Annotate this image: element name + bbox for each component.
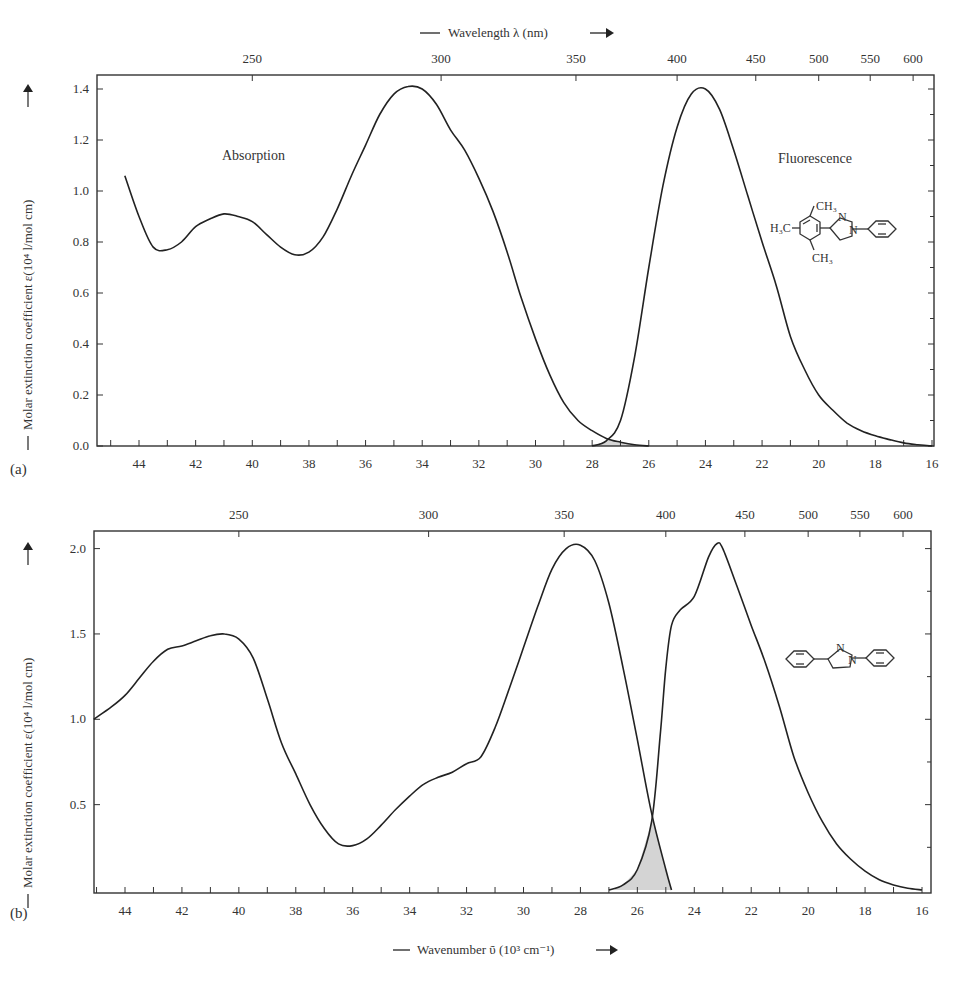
y-tick-label: 1.4 — [73, 81, 90, 96]
y-axis-ticks: 0.00.20.40.60.81.01.21.4 — [73, 81, 934, 453]
y-axis-title-a: Molar extinction coefficient ε(10⁴ l/mol… — [20, 84, 35, 450]
wavelength-tick-label: 550 — [850, 507, 870, 522]
wavelength-tick-label: 500 — [809, 51, 829, 66]
y-tick-label: 1.2 — [73, 132, 89, 147]
molecule-structure-b: N N — [786, 641, 894, 668]
wavelength-tick-label: 450 — [735, 507, 755, 522]
spectra-figure: Wavelength λ (nm) 4442403836343230282624… — [0, 0, 968, 988]
bottom-axis-title: Wavenumber ῦ (10³ cm⁻¹) — [393, 942, 618, 957]
wavelength-tick-label: 250 — [243, 51, 263, 66]
x-tick-label: 40 — [246, 456, 259, 471]
x-tick-label: 38 — [289, 903, 302, 918]
y-tick-label: 0.6 — [73, 285, 90, 300]
wavelength-tick-label: 550 — [860, 51, 880, 66]
x-tick-label: 40 — [232, 903, 245, 918]
x-tick-label: 42 — [175, 903, 188, 918]
plot-frame — [94, 531, 931, 893]
y-tick-label: 0.0 — [73, 438, 89, 453]
x-tick-label: 28 — [586, 456, 599, 471]
panel-label-a: (a) — [10, 461, 27, 478]
x-tick-label: 24 — [699, 456, 713, 471]
spectrum-curves — [94, 543, 922, 890]
x-tick-label: 34 — [403, 903, 417, 918]
svg-text:H₃C: H₃C — [770, 221, 791, 235]
svg-text:Molar extinction coefficient ε: Molar extinction coefficient ε(10⁴ l/mol… — [20, 658, 35, 888]
absorption-curve — [94, 544, 672, 890]
y-tick-label: 0.2 — [73, 387, 89, 402]
svg-text:N: N — [849, 223, 858, 237]
y-tick-label: 1.0 — [70, 711, 86, 726]
plot-frame — [97, 75, 934, 446]
x-tick-label: 44 — [119, 903, 133, 918]
svg-text:N: N — [848, 653, 857, 667]
wavelength-tick-label: 600 — [903, 51, 923, 66]
x-tick-label: 36 — [346, 903, 360, 918]
y-tick-label: 0.5 — [70, 797, 86, 812]
x-tick-label: 34 — [416, 456, 430, 471]
x-tick-label: 32 — [460, 903, 473, 918]
panel-a: 444240383634323028262422201816 0.00.20.4… — [10, 51, 939, 478]
svg-text:Wavelength λ (nm): Wavelength λ (nm) — [448, 25, 548, 40]
wavelength-axis-ticks: 250300350400450500550600 — [243, 51, 923, 81]
x-tick-label: 22 — [745, 903, 758, 918]
x-tick-label: 36 — [359, 456, 373, 471]
svg-text:N: N — [838, 210, 847, 224]
x-tick-label: 30 — [517, 903, 530, 918]
fluorescence-curve — [592, 88, 932, 446]
molecule-structure-a: CH₃ H₃C CH₃ N N — [770, 199, 896, 265]
wavelength-tick-label: 300 — [431, 51, 451, 66]
x-tick-label: 18 — [859, 903, 872, 918]
y-tick-label: 2.0 — [70, 541, 86, 556]
x-tick-label: 16 — [916, 903, 930, 918]
spectrum-curves — [125, 86, 932, 446]
x-tick-label: 22 — [756, 456, 769, 471]
wavelength-tick-label: 300 — [419, 507, 439, 522]
absorption-label: Absorption — [222, 148, 285, 163]
x-tick-label: 20 — [802, 903, 815, 918]
svg-text:CH₃: CH₃ — [816, 199, 837, 213]
wavelength-tick-label: 400 — [667, 51, 687, 66]
svg-text:Molar extinction coefficient ε: Molar extinction coefficient ε(10⁴ l/mol… — [20, 200, 35, 430]
x-tick-label: 42 — [189, 456, 202, 471]
wavelength-tick-label: 350 — [554, 507, 574, 522]
x-tick-label: 28 — [574, 903, 587, 918]
y-tick-label: 0.8 — [73, 234, 89, 249]
wavelength-tick-label: 250 — [229, 507, 249, 522]
x-tick-label: 16 — [926, 456, 940, 471]
wavelength-axis-ticks: 250300350400450500550600 — [229, 507, 913, 537]
panel-label-b: (b) — [10, 905, 28, 922]
x-tick-label: 30 — [529, 456, 542, 471]
x-tick-label: 32 — [472, 456, 485, 471]
svg-text:N: N — [836, 641, 845, 655]
y-axis-ticks: 0.51.01.52.0 — [70, 541, 931, 848]
svg-text:CH₃: CH₃ — [812, 251, 833, 265]
absorption-curve — [125, 86, 649, 446]
top-axis-title: Wavelength λ (nm) — [420, 25, 614, 40]
x-tick-label: 44 — [133, 456, 147, 471]
y-tick-label: 1.0 — [73, 183, 89, 198]
x-tick-label: 26 — [631, 903, 645, 918]
panel-b: 444240383634323028262422201816 0.51.01.5… — [10, 507, 931, 922]
svg-text:Wavenumber ῦ (10³ cm⁻¹): Wavenumber ῦ (10³ cm⁻¹) — [417, 942, 554, 957]
x-tick-label: 26 — [642, 456, 656, 471]
x-axis-ticks: 444240383634323028262422201816 — [97, 887, 929, 918]
wavelength-tick-label: 400 — [656, 507, 676, 522]
wavelength-tick-label: 450 — [746, 51, 766, 66]
x-tick-label: 38 — [302, 456, 315, 471]
x-tick-label: 24 — [688, 903, 702, 918]
wavelength-tick-label: 600 — [893, 507, 913, 522]
x-tick-label: 18 — [869, 456, 882, 471]
x-axis-ticks: 444240383634323028262422201816 — [111, 440, 939, 471]
y-tick-label: 0.4 — [73, 336, 90, 351]
wavelength-tick-label: 350 — [566, 51, 586, 66]
fluorescence-label: Fluorescence — [778, 151, 852, 166]
wavelength-tick-label: 500 — [798, 507, 818, 522]
x-tick-label: 20 — [812, 456, 825, 471]
y-axis-title-b: Molar extinction coefficient ε(10⁴ l/mol… — [20, 542, 35, 908]
y-tick-label: 1.5 — [70, 626, 86, 641]
